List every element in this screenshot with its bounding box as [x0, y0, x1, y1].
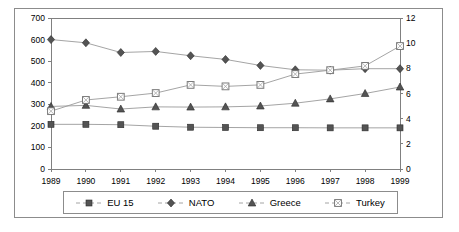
- legend-item-eu-15[interactable]: EU 15: [76, 197, 133, 209]
- legend-label: Turkey: [354, 198, 385, 208]
- y-tick-label-right: 10: [406, 38, 416, 48]
- x-tick-label: 1996: [286, 176, 305, 186]
- data-point: [118, 122, 124, 128]
- y-tick-label-right: 8: [406, 63, 411, 73]
- data-point: [223, 124, 229, 130]
- x-tick-label: 1995: [251, 176, 270, 186]
- data-point: [82, 39, 89, 47]
- legend-marker-filled-triangle-icon: [239, 197, 265, 209]
- data-point: [187, 103, 195, 110]
- x-tick-label: 1997: [321, 176, 340, 186]
- y-tick-label-right: 0: [406, 164, 411, 174]
- data-point: [396, 65, 403, 73]
- data-point: [83, 121, 89, 127]
- data-point: [117, 49, 124, 57]
- y-tick-label-right: 12: [406, 13, 416, 23]
- y-tick-label-right: 6: [406, 89, 411, 99]
- x-tick-label: 1991: [111, 176, 130, 186]
- y-tick-label-left: 600: [31, 35, 45, 45]
- y-tick-label-left: 200: [31, 121, 45, 131]
- data-point: [152, 47, 159, 55]
- data-point: [48, 121, 54, 127]
- series-eu-15: [48, 121, 403, 131]
- chart-frame: 0100200300400500600700024681012198919901…: [14, 8, 443, 218]
- data-point: [292, 125, 298, 131]
- y-tick-label-left: 0: [40, 164, 45, 174]
- legend-item-greece[interactable]: Greece: [239, 197, 301, 209]
- data-point: [257, 125, 263, 131]
- x-tick-label: 1998: [356, 176, 375, 186]
- legend-item-nato[interactable]: NATO: [158, 197, 215, 209]
- x-tick-label: 1992: [146, 176, 165, 186]
- legend-item-turkey[interactable]: Turkey: [325, 197, 385, 209]
- plot-area: 0100200300400500600700024681012198919901…: [15, 9, 444, 219]
- data-point: [152, 103, 160, 110]
- x-tick-label: 1999: [391, 176, 410, 186]
- data-point: [257, 61, 264, 69]
- legend-marker-filled-diamond-icon: [158, 197, 184, 209]
- x-tick-label: 1993: [181, 176, 200, 186]
- data-point: [396, 83, 404, 90]
- x-tick-label: 1990: [76, 176, 95, 186]
- data-point: [362, 125, 368, 131]
- data-point: [397, 125, 403, 131]
- data-point: [47, 36, 54, 44]
- y-tick-label-left: 400: [31, 78, 45, 88]
- y-tick-label-left: 300: [31, 99, 45, 109]
- legend-marker-open-square-icon: [325, 197, 351, 209]
- series-line: [51, 40, 400, 71]
- y-tick-label-left: 700: [31, 13, 45, 23]
- legend-label: EU 15: [105, 198, 133, 208]
- y-tick-label-right: 2: [406, 139, 411, 149]
- data-point: [187, 52, 194, 60]
- y-tick-label-right: 4: [406, 114, 411, 124]
- y-tick-label-left: 100: [31, 142, 45, 152]
- line-chart: 0100200300400500600700024681012198919901…: [15, 9, 444, 219]
- x-tick-label: 1994: [216, 176, 235, 186]
- data-point: [153, 123, 159, 129]
- chart-legend: EU 15NATOGreeceTurkey: [63, 191, 398, 214]
- legend-label: NATO: [187, 198, 215, 208]
- x-tick-label: 1989: [42, 176, 61, 186]
- legend-label: Greece: [268, 198, 301, 208]
- y-tick-label-left: 500: [31, 56, 45, 66]
- data-point: [188, 124, 194, 130]
- legend-marker-filled-square-icon: [76, 197, 102, 209]
- series-nato: [47, 36, 403, 75]
- data-point: [327, 125, 333, 131]
- data-point: [222, 55, 229, 63]
